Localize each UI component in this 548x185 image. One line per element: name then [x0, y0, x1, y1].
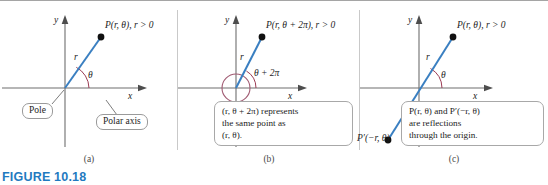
note-box-b: (r, θ + 2π) represents the same point as… — [214, 101, 353, 146]
callout-polar-axis: Polar axis — [96, 114, 148, 130]
note-line-3: (r, θ). — [222, 130, 346, 142]
x-axis-arrowhead — [484, 85, 493, 92]
point-label: P(r, θ), r > 0 — [105, 20, 154, 30]
radius-label: r — [426, 52, 430, 62]
callout-pole: Pole — [22, 103, 53, 119]
radius-label: r — [74, 52, 78, 62]
angle-label: θ — [88, 70, 93, 80]
y-axis-arrowhead — [416, 15, 423, 24]
pole-leader-line — [52, 90, 64, 104]
point-marker — [259, 34, 266, 41]
reflected-point-label: P′(−r, θ) — [357, 133, 390, 143]
note-line-2: the same point as — [222, 118, 346, 130]
point-label: P(r, θ + 2π), r > 0 — [266, 20, 335, 30]
figure-caption: FIGURE 10.18 — [2, 170, 86, 184]
note-box-c: P(r, θ) and P′(−r, θ) are reflections th… — [401, 101, 544, 146]
panel-c-label: (c) — [360, 154, 548, 164]
angle-label: θ — [441, 70, 446, 80]
y-axis-arrowhead — [62, 15, 69, 24]
figure-10-18: y x P(r, θ), r > 0 r θ Pole Polar axis (… — [0, 0, 548, 185]
y-axis-label: y — [408, 15, 412, 25]
note-line-1: (r, θ + 2π) represents — [222, 106, 346, 118]
radius-ray — [65, 37, 101, 88]
point-marker — [98, 34, 105, 41]
x-axis-label: x — [473, 91, 477, 101]
panel-a-label: (a) — [0, 154, 178, 164]
x-axis-arrowhead — [298, 85, 307, 92]
y-axis-label: y — [54, 15, 58, 25]
polar-axis-leader-line — [106, 100, 117, 115]
panel-c: y x P(r, θ), r > 0 r θ P′(−r, θ) P(r, θ)… — [360, 0, 548, 168]
radius-label: r — [240, 52, 244, 62]
y-axis-arrowhead — [233, 15, 240, 24]
radius-ray — [236, 37, 262, 88]
note-line-2: are reflections — [409, 118, 537, 130]
angle-label: θ + 2π — [254, 68, 279, 78]
y-axis-label: y — [225, 15, 229, 25]
panel-b: y x P(r, θ + 2π), r > 0 r θ + 2π (r, θ +… — [178, 0, 360, 168]
panel-b-label: (b) — [178, 154, 360, 164]
x-axis-label: x — [288, 91, 292, 101]
point-label: P(r, θ), r > 0 — [457, 20, 506, 30]
x-axis-label: x — [128, 91, 132, 101]
x-axis-arrowhead — [138, 85, 147, 92]
note-line-1: P(r, θ) and P′(−r, θ) — [409, 106, 537, 118]
note-line-3: through the origin. — [409, 130, 537, 142]
point-marker — [450, 34, 457, 41]
panel-a: y x P(r, θ), r > 0 r θ Pole Polar axis (… — [0, 0, 178, 168]
